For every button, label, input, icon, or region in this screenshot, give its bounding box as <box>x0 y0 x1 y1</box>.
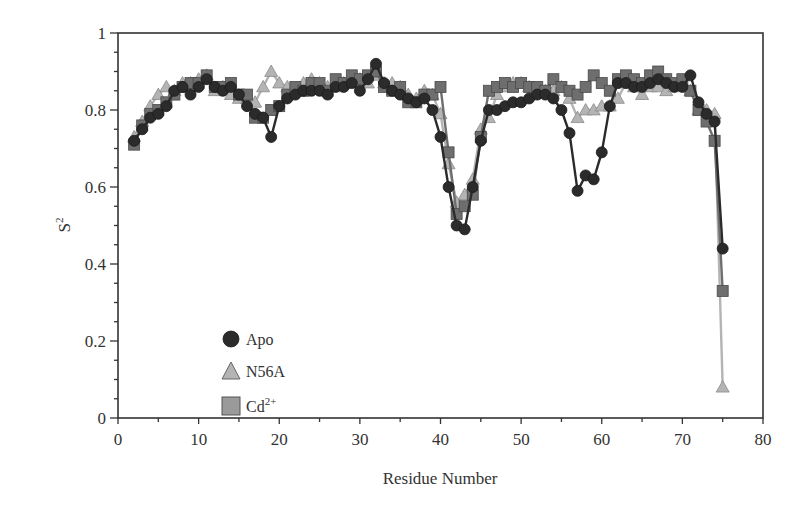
x-axis: 01020304050607080 <box>114 418 772 449</box>
legend: ApoN56ACd2+ <box>222 331 286 415</box>
x-tick-label: 10 <box>190 430 207 449</box>
y-tick-label: 0.8 <box>85 101 106 120</box>
y-axis-title-superscript: 2 <box>53 218 65 224</box>
legend-item-circle: Apo <box>223 331 274 349</box>
legend-item-square: Cd2+ <box>222 395 276 415</box>
x-tick-label: 20 <box>271 430 288 449</box>
y-tick-label: 0.2 <box>85 332 106 351</box>
s2-order-parameter-chart: 01020304050607080 00.20.40.60.81 Residue… <box>0 0 810 505</box>
legend-item-triangle: N56A <box>222 362 286 380</box>
x-tick-label: 70 <box>674 430 691 449</box>
legend-label: N56A <box>246 363 286 380</box>
y-tick-label: 0.4 <box>85 255 107 274</box>
y-axis-title: S2 <box>53 218 74 233</box>
x-tick-label: 80 <box>755 430 772 449</box>
x-axis-title: Residue Number <box>383 469 498 488</box>
x-tick-label: 60 <box>593 430 610 449</box>
legend-label: Apo <box>246 331 274 349</box>
legend-label: Cd2+ <box>246 395 276 415</box>
series-apo <box>129 58 729 254</box>
y-tick-label: 0.6 <box>85 178 106 197</box>
y-tick-label: 1 <box>98 24 107 43</box>
y-axis-title-base: S <box>55 223 74 232</box>
x-tick-label: 40 <box>432 430 449 449</box>
x-tick-label: 0 <box>114 430 123 449</box>
y-axis: 00.20.40.60.81 <box>85 24 118 428</box>
svg-text:S2: S2 <box>53 218 74 233</box>
data-series <box>128 58 730 392</box>
x-tick-label: 50 <box>513 430 530 449</box>
x-tick-label: 30 <box>351 430 368 449</box>
y-tick-label: 0 <box>98 409 107 428</box>
